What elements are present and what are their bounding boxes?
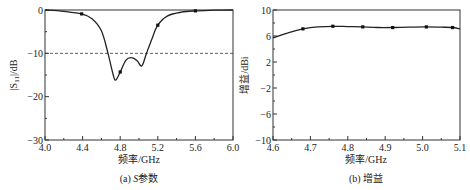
y-tick-label: −30 [27,135,43,146]
data-point-marker [194,9,197,12]
x-tick-label: 4.8 [114,142,127,153]
plot-frame [45,10,233,140]
data-point-marker [391,26,394,29]
y-tick-label: −10 [27,48,43,59]
gain-chart: 4.64.74.84.95.05.11062−2−6−10 增益/dBi 频率/… [238,5,466,186]
y-tick-label: −10 [255,135,271,146]
data-point-marker [361,25,364,28]
y-tick-label: −20 [27,91,43,102]
x-tick-label: 4.8 [342,142,355,153]
data-point-marker [80,12,83,15]
x-tick-label: 6.0 [227,142,240,153]
data-point-marker [425,25,428,28]
y-axis-label: 增益/dBi [238,56,250,93]
y-tick-label: 10 [261,5,271,16]
figure: 4.04.44.85.25.66.00−10−20−30 |S11|/dB 频率… [0,0,470,190]
gain-curve [273,26,460,38]
x-tick-label: 4.4 [76,142,89,153]
data-markers [80,9,197,73]
x-tick-label: 4.7 [304,142,317,153]
x-axis-label: 频率/GHz [345,153,387,165]
x-tick-label: 4.9 [379,142,392,153]
s11-curve [45,10,233,80]
x-axis-label: 频率/GHz [118,153,160,165]
axis-ticks: 4.04.44.85.25.66.00−10−20−30 [27,5,239,154]
y-tick-label: 0 [38,5,43,16]
x-tick-label: 5.2 [152,142,165,153]
s11-chart: 4.04.44.85.25.66.00−10−20−30 |S11|/dB 频率… [8,5,239,186]
data-point-marker [451,26,454,29]
data-point-marker [331,25,334,28]
caption-a: (a) S参数 [120,172,159,185]
x-tick-label: 5.6 [189,142,202,153]
caption-b: (b) 增益 [349,172,383,185]
x-tick-label: 5.1 [454,142,467,153]
y-axis-label: |S11|/dB [8,59,21,90]
data-point-marker [156,24,159,27]
data-point-marker [119,70,122,73]
x-tick-label: 5.0 [416,142,429,153]
y-tick-label: −2 [260,83,271,94]
y-tick-label: 2 [266,57,271,68]
data-point-marker [301,27,304,30]
y-tick-label: −6 [260,109,271,120]
y-tick-label: 6 [266,31,271,42]
